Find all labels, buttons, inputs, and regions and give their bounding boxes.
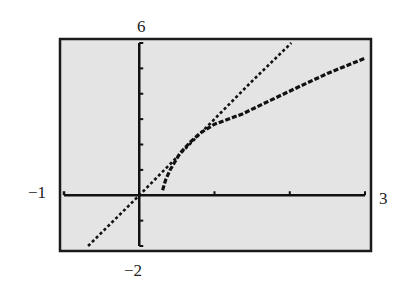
- ymin-label: −2: [124, 262, 142, 279]
- ymax-label: 6: [137, 18, 146, 35]
- calculator-graph: [0, 0, 404, 294]
- screen-background: [60, 39, 371, 251]
- xmin-label: −1: [28, 184, 46, 201]
- xmax-label: 3: [379, 190, 388, 207]
